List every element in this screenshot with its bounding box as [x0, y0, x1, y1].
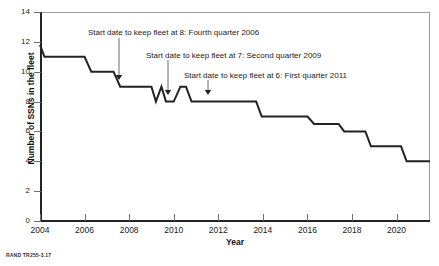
y-axis-title: Number of SSNs in the fleet [27, 29, 36, 189]
x-axis-tick-label: 2020 [377, 226, 417, 235]
plot-area-frame [40, 12, 430, 221]
x-axis-tick [218, 214, 219, 221]
x-axis-tick-label: 2016 [287, 226, 327, 235]
x-axis-tick [40, 214, 41, 221]
x-axis-tick [129, 214, 130, 221]
x-axis-tick-label: 2018 [332, 226, 372, 235]
annotation-label: Start date to keep fleet at 8: Fourth qu… [88, 28, 259, 37]
y-axis-tick [34, 12, 41, 13]
x-axis-tick-label: 2004 [20, 226, 60, 235]
x-axis-line [40, 220, 430, 222]
x-axis-tick-label: 2012 [198, 226, 238, 235]
y-axis-tick-label: 14 [2, 8, 30, 16]
x-axis-tick-label: 2010 [154, 226, 194, 235]
y-axis-tick [34, 191, 41, 192]
x-axis-tick [263, 214, 264, 221]
x-axis-tick [352, 214, 353, 221]
figure-source-note: RAND TR255-3.17 [6, 252, 51, 258]
x-axis-tick [174, 214, 175, 221]
x-axis-tick [397, 214, 398, 221]
x-axis-tick [307, 214, 308, 221]
x-axis-tick-label: 2008 [109, 226, 149, 235]
x-axis-title: Year [40, 238, 430, 247]
annotation-label: Start date to keep fleet at 6: First qua… [184, 71, 347, 80]
annotation-label: Start date to keep fleet at 7: Second qu… [146, 51, 321, 60]
x-axis-tick-label: 2014 [243, 226, 283, 235]
y-axis-tick [34, 221, 41, 222]
chart-figure: 02468101214 2004200620082010201220142016… [0, 0, 439, 266]
x-axis-tick [85, 214, 86, 221]
x-axis-tick-label: 2006 [65, 226, 105, 235]
y-axis-tick-label: 0 [2, 217, 30, 225]
